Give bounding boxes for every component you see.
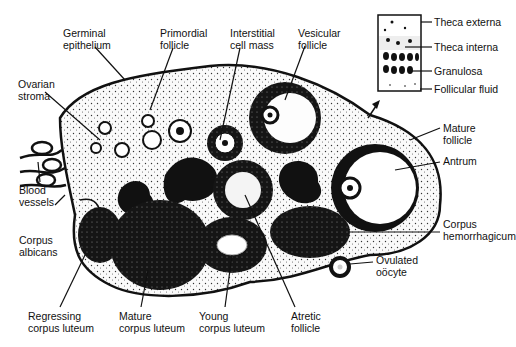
label-antrum: Antrum <box>443 155 477 167</box>
label-mature-corpus-luteum: Maturecorpus luteum <box>119 310 185 334</box>
label-young-corpus-luteum: Youngcorpus luteum <box>199 310 265 334</box>
inset-follicle-wall <box>378 15 421 91</box>
label-germinal-epithelium: Germinalepithelium <box>63 27 111 51</box>
label-primordial-follicle: Primordialfollicle <box>160 27 207 51</box>
label-follicular-fluid: Follicular fluid <box>434 83 498 95</box>
label-theca-interna: Theca interna <box>434 41 498 53</box>
blood-vessels <box>20 142 66 187</box>
label-vesicular-follicle: Vesicularfollicle <box>298 27 341 51</box>
label-atretic-follicle: Atreticfollicle <box>291 310 321 334</box>
label-ovulated-oocyte: Ovulatedoöcyte <box>376 254 418 278</box>
label-mature-follicle: Maturefollicle <box>443 122 476 146</box>
label-granulosa: Granulosa <box>434 65 482 77</box>
label-corpus-albicans: Corpusalbicans <box>19 234 58 258</box>
label-regressing-corpus-luteum: Regressingcorpus luteum <box>28 310 94 334</box>
label-interstitial-cell-mass: Interstitialcell mass <box>230 27 275 51</box>
label-corpus-hemorrhagicum: Corpushemorrhagicum <box>443 218 516 242</box>
label-ovarian-stroma: Ovarianstroma <box>18 78 55 102</box>
label-blood-vessels: Bloodvessels <box>19 184 54 208</box>
label-theca-externa: Theca externa <box>434 16 501 28</box>
